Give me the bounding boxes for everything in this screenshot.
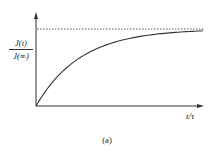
figure-caption: (a) — [0, 135, 214, 145]
fraction-bar — [9, 49, 33, 50]
y-label-numerator: J(t) — [9, 38, 33, 48]
x-axis-label: t/τ — [186, 112, 194, 121]
data-curve — [36, 31, 203, 106]
y-axis-label: J(t) J(∞) — [9, 38, 33, 61]
y-axis-arrow-icon — [34, 12, 38, 19]
chart-canvas — [0, 0, 214, 153]
x-axis-arrow-icon — [197, 104, 204, 108]
y-label-denominator: J(∞) — [9, 51, 33, 61]
